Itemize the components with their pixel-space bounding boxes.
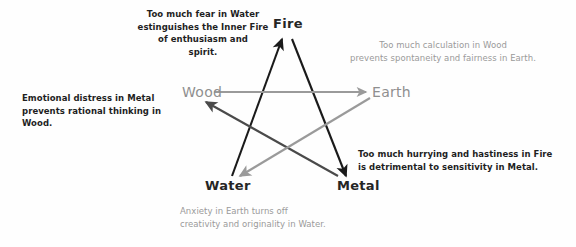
node-label-water: Water (205, 179, 251, 192)
arrow-earth-to-water (240, 98, 370, 176)
node-label-earth: Earth (372, 85, 411, 99)
caption-water-to-fire: Too much fear in Water estinguishes the … (118, 8, 288, 58)
arrow-metal-to-wood (206, 102, 338, 176)
caption-earth-to-water: Anxiety in Earth turns off creativity an… (180, 205, 370, 230)
caption-wood-to-earth: Too much calculation in Wood prevents sp… (318, 39, 568, 64)
node-label-metal: Metal (337, 179, 380, 192)
node-label-wood: Wood (182, 85, 222, 99)
diagram-canvas: Fire Wood Earth Water Metal Too much fea… (0, 0, 576, 247)
caption-metal-to-wood: Emotional distress in Metal prevents rat… (22, 92, 182, 130)
caption-fire-to-metal: Too much hurrying and hastiness in Fire … (358, 148, 573, 173)
